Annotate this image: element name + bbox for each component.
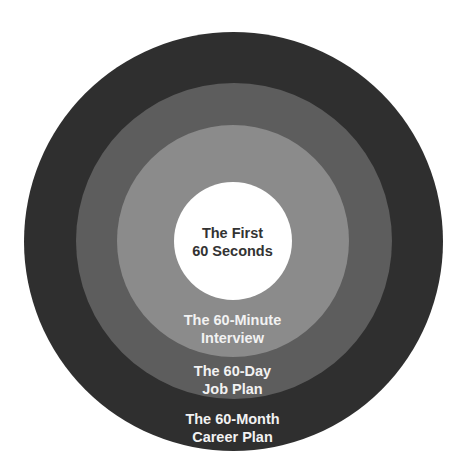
label-line-1: The First <box>0 224 465 242</box>
label-line-2: Career Plan <box>0 428 465 446</box>
label-60-day-job-plan: The 60-Day Job Plan <box>0 362 465 398</box>
label-60-month-career-plan: The 60-Month Career Plan <box>0 410 465 446</box>
label-line-2: Job Plan <box>0 380 465 398</box>
label-line-1: The 60-Day <box>0 362 465 380</box>
label-line-1: The 60-Minute <box>0 311 465 329</box>
label-first-60-seconds: The First 60 Seconds <box>0 224 465 260</box>
label-line-2: Interview <box>0 329 465 347</box>
label-line-2: 60 Seconds <box>0 242 465 260</box>
label-line-1: The 60-Month <box>0 410 465 428</box>
label-60-minute-interview: The 60-Minute Interview <box>0 311 465 347</box>
